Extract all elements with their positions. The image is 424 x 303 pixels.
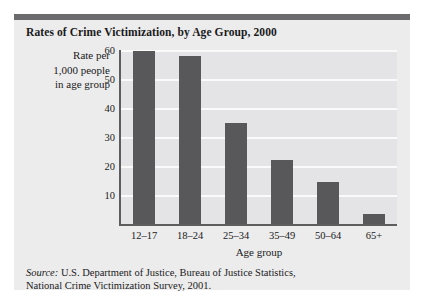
- x-tick-label: 25–34: [213, 230, 259, 241]
- x-tick-label: 18–24: [167, 230, 213, 241]
- x-axis-label: Age group: [121, 246, 397, 258]
- bar-slot: [167, 50, 213, 224]
- chart-title: Rates of Crime Victimization, by Age Gro…: [26, 26, 277, 38]
- y-tick-label: 20: [81, 161, 115, 172]
- x-tick-label: 65+: [351, 230, 397, 241]
- x-axis-tick-labels: 12–1718–2425–3435–4950–6465+: [121, 230, 397, 246]
- y-axis-tick-labels: 102030405060: [77, 50, 115, 224]
- plot-area: [119, 50, 397, 226]
- x-tick-label: 12–17: [121, 230, 167, 241]
- source-note-label: Source:: [26, 267, 58, 278]
- y-tick-label: 10: [81, 190, 115, 201]
- bar: [179, 56, 201, 224]
- bar-slot: [305, 50, 351, 224]
- bar-slot: [259, 50, 305, 224]
- y-tick-label: 60: [81, 45, 115, 56]
- bar: [271, 160, 293, 224]
- bar: [225, 123, 247, 225]
- source-note: Source: U.S. Department of Justice, Bure…: [26, 266, 356, 292]
- top-rule-decoration: [14, 14, 410, 20]
- bar: [317, 182, 339, 224]
- y-tick-label: 30: [81, 132, 115, 143]
- x-tick-label: 50–64: [305, 230, 351, 241]
- y-tick-label: 40: [81, 103, 115, 114]
- source-note-line-2: National Crime Victimization Survey, 200…: [26, 280, 211, 291]
- source-note-line-1: U.S. Department of Justice, Bureau of Ju…: [58, 267, 295, 278]
- bar: [133, 51, 155, 224]
- x-tick-label: 35–49: [259, 230, 305, 241]
- bar-slot: [351, 50, 397, 224]
- bar-slot: [121, 50, 167, 224]
- figure-panel: Rates of Crime Victimization, by Age Gro…: [14, 14, 410, 290]
- y-tick-label: 50: [81, 74, 115, 85]
- bar-slot: [213, 50, 259, 224]
- bar: [363, 214, 385, 224]
- bar-series: [121, 50, 397, 224]
